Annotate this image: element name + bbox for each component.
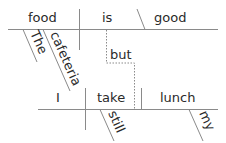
word-food: food bbox=[28, 10, 57, 25]
word-the: The bbox=[27, 27, 51, 56]
word-i: I bbox=[56, 90, 60, 105]
word-good: good bbox=[154, 10, 186, 25]
word-still: still bbox=[105, 108, 128, 135]
sentence-diagram: food is good The cafeteria but I take lu… bbox=[0, 0, 226, 143]
word-cafeteria: cafeteria bbox=[47, 29, 84, 88]
word-my: my bbox=[196, 108, 218, 133]
word-take: take bbox=[97, 90, 125, 105]
word-is: is bbox=[102, 10, 113, 25]
word-lunch: lunch bbox=[160, 90, 195, 105]
word-but: but bbox=[110, 47, 132, 62]
clause1-complement-divider bbox=[137, 9, 145, 30]
